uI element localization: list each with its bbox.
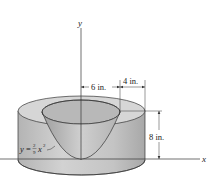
solid-of-revolution-diagram: y x 6 in. 4 in. 8 in. y = 2 9 x 2 — [0, 0, 208, 190]
inner-radius-label: 6 in. — [91, 82, 106, 92]
height-label: 8 in. — [149, 132, 164, 142]
height-dimension: 8 in. — [149, 111, 164, 159]
svg-text:x: x — [37, 144, 42, 154]
svg-text:=: = — [26, 144, 31, 154]
wall-thickness-label: 4 in. — [123, 76, 138, 86]
x-axis-label: x — [201, 154, 206, 164]
svg-text:y: y — [19, 144, 24, 154]
y-axis-label: y — [77, 18, 82, 28]
